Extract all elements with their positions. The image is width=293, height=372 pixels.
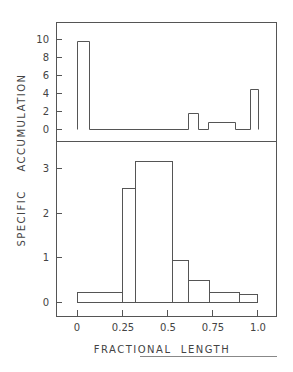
x-tick-labels: 0 0.25 0.5 0.75 1.0 (74, 322, 266, 333)
x-ticks (78, 310, 258, 316)
svg-text:0: 0 (74, 322, 80, 333)
y-axis-label: SPECIFIC ACCUMULATION (16, 73, 27, 246)
svg-text:6: 6 (43, 70, 49, 81)
svg-text:2: 2 (43, 106, 49, 117)
svg-text:0.25: 0.25 (112, 322, 134, 333)
svg-text:1.0: 1.0 (250, 322, 266, 333)
svg-text:8: 8 (43, 52, 49, 63)
svg-text:1: 1 (43, 252, 49, 263)
svg-text:4: 4 (43, 88, 49, 99)
top-bars (78, 42, 259, 130)
top-y-tick-labels: 10 8 6 4 2 0 (36, 34, 49, 135)
svg-text:0: 0 (43, 297, 49, 308)
bottom-y-tick-labels: 3 2 1 0 (43, 163, 49, 308)
svg-text:10: 10 (36, 34, 49, 45)
svg-text:0.5: 0.5 (160, 322, 176, 333)
svg-text:0.75: 0.75 (202, 322, 224, 333)
x-axis-label: FRACTIONAL LENGTH (94, 344, 231, 355)
svg-text:2: 2 (43, 208, 49, 219)
histogram-figure: 10 8 6 4 2 0 3 2 1 0 0 0.25 0.5 0.75 1.0… (0, 0, 293, 372)
svg-text:0: 0 (43, 124, 49, 135)
bottom-bars (78, 162, 258, 303)
svg-text:3: 3 (43, 163, 49, 174)
